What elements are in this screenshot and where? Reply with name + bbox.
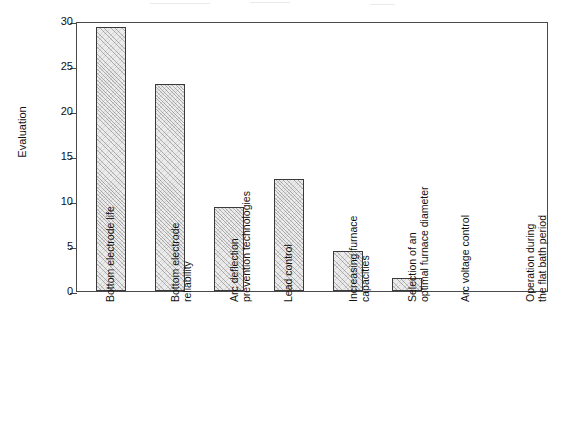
y-tick-label: 30 bbox=[61, 15, 73, 27]
y-tick-label: 10 bbox=[61, 195, 73, 207]
x-category-label-line: optimal furnace diameter bbox=[419, 186, 431, 302]
x-category-label-line: Arc voltage control bbox=[460, 215, 472, 302]
x-category-label-line: capacities bbox=[359, 216, 371, 302]
scan-artifact bbox=[150, 3, 210, 4]
x-category-label: Selection of anoptimal furnace diameter bbox=[407, 186, 430, 302]
y-axis-label: Evaluation bbox=[16, 72, 28, 192]
x-category-label-line: Increasing furnace bbox=[348, 216, 360, 302]
y-tick-label: 5 bbox=[67, 240, 73, 252]
x-category-label-line: Selection of an bbox=[407, 186, 419, 302]
plot-area: 051015202530 bbox=[76, 22, 548, 292]
x-category-label-line: the flat bath period bbox=[537, 215, 549, 302]
x-category-label: Arc deflectionprevention technologies bbox=[229, 191, 252, 302]
y-tick-label: 15 bbox=[61, 150, 73, 162]
scan-artifact bbox=[250, 2, 290, 3]
x-category-label-line: reliability bbox=[182, 223, 194, 302]
x-category-label: Increasing furnacecapacities bbox=[348, 216, 371, 302]
x-category-label-line: prevention technologies bbox=[241, 191, 253, 302]
y-tick-label: 25 bbox=[61, 60, 73, 72]
bar-chart-figure: Evaluation 051015202530 Bottom electrode… bbox=[0, 0, 565, 448]
scan-artifact bbox=[370, 4, 395, 5]
x-category-label: Bottom electrode life bbox=[105, 206, 117, 302]
x-category-label-line: Bottom electrode bbox=[170, 223, 182, 302]
y-tick-label: 0 bbox=[67, 285, 73, 297]
x-category-label-line: Bottom electrode life bbox=[105, 206, 117, 302]
x-category-label-line: Lead control bbox=[283, 244, 295, 302]
x-category-label: Operation duringthe flat bath period bbox=[525, 215, 548, 302]
x-category-label: Bottom electrodereliability bbox=[170, 223, 193, 302]
y-tick-label: 20 bbox=[61, 105, 73, 117]
x-category-label: Arc voltage control bbox=[460, 215, 472, 302]
x-category-label: Lead control bbox=[283, 244, 295, 302]
